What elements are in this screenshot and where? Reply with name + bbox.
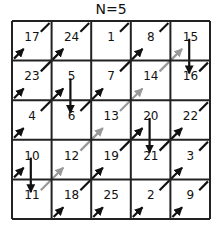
cell-value: 25 [91,188,131,202]
cell-value: 14 [131,69,171,83]
cell-value: 2 [131,188,171,202]
cell-value: 9 [170,188,210,202]
cell-value: 8 [131,30,171,44]
cell-value: 13 [91,109,131,123]
cell-value: 23 [12,69,52,83]
cell-value: 20 [131,109,171,123]
cell-value: 3 [170,149,210,163]
cell-value: 15 [170,30,210,44]
cell-value: 16 [170,69,210,83]
cell-value: 24 [52,30,92,44]
cell-value: 12 [52,149,92,163]
cell-value: 17 [12,30,52,44]
cell-value: 10 [12,149,52,163]
cell-value: 21 [131,149,171,163]
cell-value: 18 [52,188,92,202]
cell-value: 11 [12,188,52,202]
cell-value: 1 [91,30,131,44]
cell-value: 7 [91,69,131,83]
cell-value: 5 [52,69,92,83]
cell-value: 22 [170,109,210,123]
cell-value: 6 [52,109,92,123]
cell-value: 19 [91,149,131,163]
cell-value: 4 [12,109,52,123]
